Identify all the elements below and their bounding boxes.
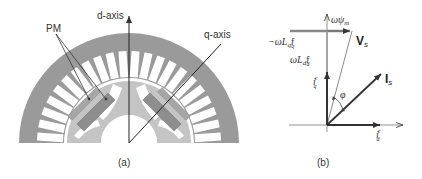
neg-omega-lq-iq-label: −ωLqieq — [268, 36, 295, 49]
q-axis-label: q-axis — [204, 29, 231, 40]
pm-leader-dot-2 — [105, 98, 108, 101]
iq-label: ieq — [313, 75, 318, 89]
vs-label: Vs — [356, 34, 368, 49]
figure-canvas: PM d-axis q-axis (a) ωψm −ωLqieq ωLdied … — [0, 0, 422, 179]
caption-a: (a) — [118, 157, 130, 168]
pm-leader-dot-1 — [88, 98, 91, 101]
phi-label: φ — [340, 89, 346, 100]
pm-label: PM — [46, 23, 61, 34]
d-axis-label: d-axis — [97, 10, 124, 21]
vs-vector — [327, 31, 352, 125]
omega-ld-id-label: ωLdied — [290, 54, 311, 67]
omega-psi-m-label: ωψm — [331, 14, 349, 27]
caption-b: (b) — [317, 157, 329, 168]
is-label: Is — [385, 72, 392, 87]
id-label: ied — [376, 128, 381, 142]
is-vector — [327, 74, 381, 125]
